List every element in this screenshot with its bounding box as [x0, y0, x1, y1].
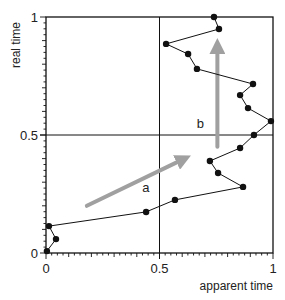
- data-point: [245, 105, 251, 111]
- chart: 00.5100.51 ab apparent time real time: [0, 0, 285, 300]
- annotation-labels: ab: [142, 116, 204, 195]
- data-point: [172, 197, 178, 203]
- x-tick-label: 0: [42, 261, 49, 276]
- data-point: [216, 26, 222, 32]
- data-point: [237, 92, 243, 98]
- data-point: [185, 51, 191, 57]
- annotation-label-b: b: [197, 116, 204, 131]
- data-point: [143, 209, 149, 215]
- trajectory-line: [47, 17, 271, 251]
- data-point: [251, 132, 257, 138]
- data-point: [44, 248, 50, 254]
- data-point: [163, 41, 169, 47]
- y-tick-label: 0: [31, 246, 38, 261]
- data-point: [240, 184, 246, 190]
- trajectory-markers: [44, 14, 274, 255]
- y-tick-label: 1: [31, 10, 38, 25]
- data-point: [215, 170, 221, 176]
- x-tick-label: 0.5: [150, 261, 168, 276]
- x-axis-title: apparent time: [200, 279, 274, 293]
- data-point: [194, 66, 200, 72]
- data-point: [237, 145, 243, 151]
- y-axis-title: real time: [9, 22, 23, 68]
- y-tick-label: 0.5: [20, 128, 38, 143]
- data-point: [207, 158, 213, 164]
- tick-labels: 00.5100.51: [20, 10, 277, 276]
- data-point: [268, 118, 274, 124]
- annotation-label-a: a: [142, 180, 150, 195]
- data-point: [53, 236, 59, 242]
- x-tick-label: 1: [269, 261, 276, 276]
- data-point: [46, 223, 52, 229]
- data-point: [250, 81, 256, 87]
- data-point: [211, 14, 217, 20]
- annotation-arrow-a: [87, 159, 185, 206]
